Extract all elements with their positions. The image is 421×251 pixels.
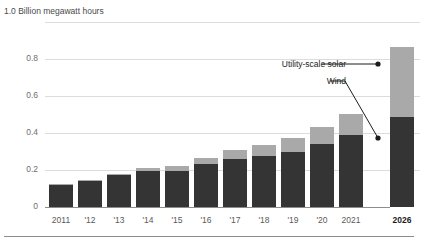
y-tick-label-0.8: 0.8 (0, 54, 38, 63)
bar-18 (252, 145, 276, 207)
bar-19 (281, 138, 305, 207)
bar-segment-wind (165, 171, 189, 207)
bar-segment-solar (310, 127, 334, 144)
bar-segment-wind (78, 181, 102, 207)
bar-segment-wind (49, 185, 73, 207)
bar-segment-solar (339, 114, 363, 135)
bar-20 (310, 127, 334, 207)
bar-2011 (49, 184, 73, 207)
bar-segment-wind (310, 144, 334, 207)
bar-segment-wind (223, 159, 247, 207)
bar-segment-solar (252, 145, 276, 156)
stacked-bar-chart: 0.80.60.40.20 1.0 Billion megawatt hours… (0, 0, 421, 251)
bar-segment-wind (107, 175, 131, 207)
bar-segment-solar (390, 47, 414, 117)
bar-2026 (390, 47, 414, 207)
bar-segment-wind (252, 156, 276, 207)
bar-17 (223, 150, 247, 207)
callout-label-wind: Wind (327, 76, 346, 86)
bar-segment-wind (136, 171, 160, 207)
bottom-divider (4, 236, 414, 237)
bar-13 (107, 174, 131, 207)
bar-group (45, 0, 421, 251)
y-tick-label-0.2: 0.2 (0, 165, 38, 174)
bar-segment-wind (194, 164, 218, 207)
bar-15 (165, 166, 189, 207)
bar-12 (78, 180, 102, 207)
y-tick-label-0: 0 (0, 202, 38, 211)
bar-segment-wind (281, 152, 305, 208)
bar-segment-wind (339, 135, 363, 207)
bar-segment-solar (281, 138, 305, 152)
y-tick-label-0.6: 0.6 (0, 91, 38, 100)
x-label-2026: 2026 (384, 215, 420, 225)
bar-2021 (339, 114, 363, 207)
bar-segment-solar (223, 150, 247, 159)
bar-14 (136, 168, 160, 207)
callout-label-solar: Utility-scale solar (282, 59, 346, 69)
bar-segment-wind (390, 117, 414, 207)
bar-16 (194, 158, 218, 207)
y-tick-label-0.4: 0.4 (0, 128, 38, 137)
x-label-2021: 2021 (333, 215, 369, 225)
